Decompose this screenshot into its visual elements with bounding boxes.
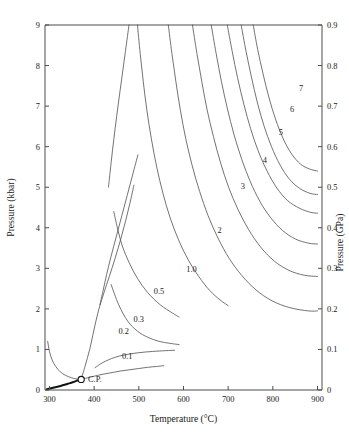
- isochore-curve-left-edge-isochore: [48, 341, 82, 379]
- ytick-right-label: 0: [327, 386, 331, 395]
- curve-label-3: 3: [241, 182, 245, 191]
- ytick-right-label: 0.6: [327, 143, 337, 152]
- isochore-curve-4: [211, 25, 317, 244]
- curve-label-0.1: 0.1: [122, 352, 132, 361]
- ytick-left-label: 1: [36, 345, 40, 354]
- critical-point-marker: [78, 376, 84, 382]
- ytick-left-label: 5: [36, 183, 40, 192]
- ytick-right-label: 0.8: [327, 62, 337, 71]
- ytick-right-label: 0.5: [327, 183, 337, 192]
- ytick-right-label: 0.7: [327, 102, 337, 111]
- isochore-curve-0.2-lower: [95, 350, 175, 367]
- xtick-label: 900: [311, 395, 324, 404]
- isochore-pressure-temperature-chart: 0.10.20.30.51.0234567C.P.300400500600700…: [0, 0, 349, 444]
- isochore-curve-3: [192, 25, 317, 276]
- xtick-label: 600: [177, 395, 190, 404]
- isochore-curve-0.5: [108, 25, 129, 187]
- isochore-curve-0.3: [100, 155, 138, 305]
- curves-layer: [47, 25, 318, 389]
- ytick-left-label: 6: [36, 143, 40, 152]
- x-axis-title: Temperature (°C): [150, 413, 217, 425]
- xtick-label: 500: [133, 395, 146, 404]
- ytick-left-label: 8: [36, 62, 40, 71]
- isochore-curve-7: [253, 25, 317, 171]
- curve-label-4: 4: [263, 156, 268, 165]
- curve-label-0.5: 0.5: [154, 287, 164, 296]
- isochore-curve-liquid-vapor-boiling-curve: [47, 379, 81, 389]
- critical-point-label: C.P.: [88, 375, 102, 384]
- curve-label-5: 5: [279, 128, 283, 137]
- chart-canvas: 0.10.20.30.51.0234567C.P.300400500600700…: [0, 0, 349, 444]
- xtick-label: 400: [88, 395, 101, 404]
- curve-label-0.2: 0.2: [118, 327, 128, 336]
- isochore-curve-0.3-lower: [111, 285, 179, 345]
- ytick-left-label: 3: [36, 264, 40, 273]
- xtick-label: 800: [267, 395, 280, 404]
- ytick-left-label: 9: [36, 21, 40, 30]
- curve-label-2: 2: [218, 226, 222, 235]
- ytick-left-label: 2: [36, 305, 40, 314]
- curve-label-0.3: 0.3: [134, 315, 144, 324]
- ytick-right-label: 0.2: [327, 305, 337, 314]
- isochore-curve-0.2: [81, 185, 134, 379]
- xtick-label: 700: [222, 395, 235, 404]
- ytick-left-label: 7: [36, 102, 40, 111]
- curve-label-6: 6: [290, 105, 294, 114]
- y-axis-title-left: Pressure (kbar): [5, 178, 17, 236]
- ytick-right-label: 0.1: [327, 345, 337, 354]
- ytick-left-label: 0: [36, 386, 40, 395]
- ytick-right-label: 0.9: [327, 21, 337, 30]
- isochore-curve-1.0: [137, 25, 228, 306]
- axes-layer: [45, 25, 322, 390]
- xtick-label: 300: [43, 395, 56, 404]
- ytick-left-label: 4: [36, 224, 41, 233]
- y-axis-title-right: Pressure (GPa): [334, 214, 346, 272]
- curve-label-7: 7: [299, 84, 303, 93]
- isochore-curve-6: [241, 25, 317, 195]
- curve-label-1.0: 1.0: [186, 265, 196, 274]
